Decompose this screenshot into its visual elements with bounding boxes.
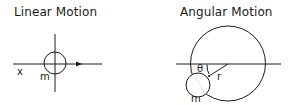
radius-endpoint-dot [208,75,210,77]
mass-circle-angular [186,73,210,97]
angle-arc [207,65,209,75]
radius-line [209,64,228,76]
arrow-head-icon [76,62,82,67]
diagram-graphics [0,0,290,105]
